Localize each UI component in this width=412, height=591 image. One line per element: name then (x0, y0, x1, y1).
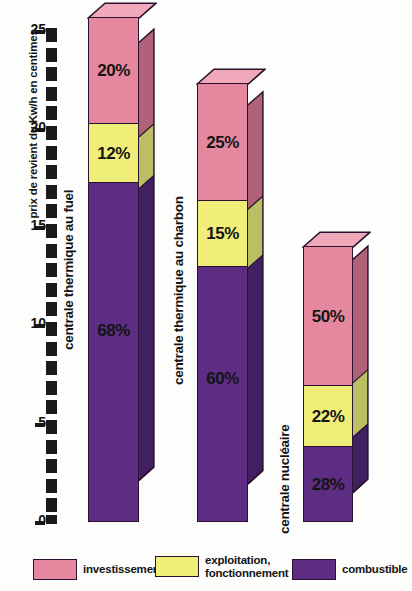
legend-swatch-exploitation (155, 556, 199, 577)
y-axis-title: prix de revient du Kw/h en centimes (27, 29, 39, 219)
bar-3-front-face: 50% 22% 28% (303, 246, 353, 522)
y-axis-foot (46, 515, 57, 523)
bar-2-label-exploitation: 15% (206, 224, 239, 244)
bar-caption-nucleaire: centrale nucléaire (277, 425, 292, 534)
bar-1-side-face (138, 1, 155, 523)
y-tick-label-10: 10 (18, 315, 46, 331)
bar-caption-charbon: centrale thermique au charbon (171, 196, 186, 385)
bar-3-label-investissement: 50% (312, 307, 345, 327)
bar-3-segment-investissement: 50% (304, 247, 352, 386)
y-tick-label-15: 15 (18, 217, 46, 233)
chart-figure: 25 20 15 10 5 0 prix de revient du Kw/h … (0, 0, 412, 591)
bar-3-segment-exploitation: 22% (304, 386, 352, 447)
legend-label-combustible: combustible (342, 563, 408, 576)
bar-centrale-thermique-au-charbon[interactable]: 25% 15% 60% (197, 83, 248, 522)
bar-1-label-combustible: 68% (97, 321, 130, 341)
bar-2-side-face (247, 67, 264, 523)
bar-1-front-face: 20% 12% 68% (88, 17, 139, 522)
bar-2-segment-combustible: 60% (198, 267, 247, 522)
legend: investissement exploitation, fonctionnem… (0, 548, 412, 591)
bar-1-segment-exploitation: 12% (89, 124, 138, 183)
legend-label-exploitation: exploitation, fonctionnement (205, 554, 288, 580)
legend-item-combustible[interactable]: combustible (292, 559, 408, 580)
bar-centrale-thermique-au-fuel[interactable]: 20% 12% 68% (88, 17, 139, 522)
bar-2-front-face: 25% 15% 60% (197, 83, 248, 522)
bar-3-label-exploitation: 22% (312, 407, 345, 427)
legend-label-exploitation-line2: fonctionnement (205, 567, 288, 579)
bar-1-segment-investissement: 20% (89, 18, 138, 124)
bar-3-segment-combustible: 28% (304, 447, 352, 522)
bar-centrale-nucleaire[interactable]: 50% 22% 28% (303, 246, 353, 522)
bar-1-segment-combustible: 68% (89, 183, 138, 522)
bar-caption-fuel: centrale thermique au fuel (61, 190, 76, 350)
bar-3-label-combustible: 28% (312, 475, 345, 495)
legend-label-investissement: investissement (83, 563, 163, 576)
y-axis-ruler (46, 28, 57, 524)
y-tick-label-5: 5 (18, 414, 46, 430)
bar-1-label-investissement: 20% (97, 61, 130, 81)
bar-2-segment-exploitation: 15% (198, 201, 247, 267)
bar-2-segment-investissement: 25% (198, 84, 247, 201)
bar-2-label-investissement: 25% (206, 133, 239, 153)
bar-3-side-face (352, 230, 369, 523)
legend-label-exploitation-line1: exploitation, (205, 554, 270, 566)
legend-item-investissement[interactable]: investissement (33, 559, 163, 580)
legend-swatch-combustible (292, 559, 336, 580)
bar-1-label-exploitation: 12% (97, 144, 130, 164)
legend-item-exploitation[interactable]: exploitation, fonctionnement (155, 554, 288, 580)
bar-2-label-combustible: 60% (206, 369, 239, 389)
y-tick-label-0: 0 (18, 512, 46, 528)
legend-swatch-investissement (33, 559, 77, 580)
